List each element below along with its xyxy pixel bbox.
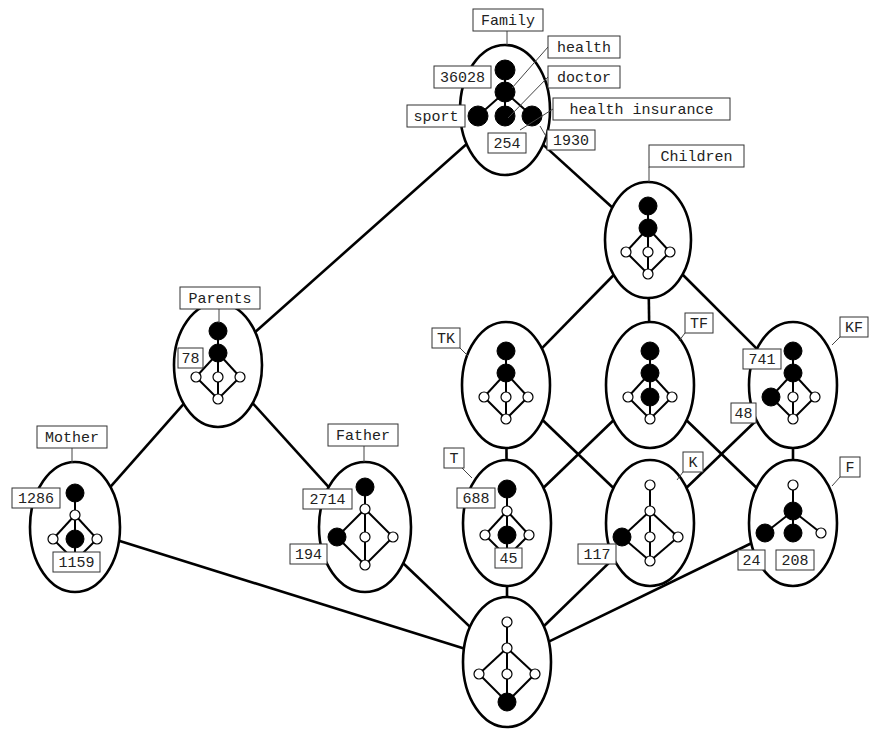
filled-concept-dot [356, 478, 374, 496]
annotation: 45 [495, 548, 522, 568]
annotation: 78 [178, 348, 203, 368]
filled-concept-dot [613, 528, 631, 546]
empty-concept-dot [213, 372, 223, 382]
node-label-family: Family [481, 13, 535, 30]
empty-concept-dot [92, 534, 102, 544]
filled-concept-dot [497, 342, 515, 360]
node-label-kf: KF [845, 320, 863, 337]
annotation: 1286 [12, 488, 60, 508]
empty-concept-dot [645, 506, 655, 516]
filled-concept-dot [639, 219, 657, 237]
filled-concept-dot [468, 106, 488, 126]
filled-concept-dot [756, 524, 774, 542]
lattice-node-kf: KF [749, 317, 868, 448]
empty-concept-dot [816, 528, 826, 538]
annotation: sport [407, 105, 465, 127]
annotation: 688 [457, 488, 495, 508]
annotation: 117 [578, 544, 616, 564]
annotation-text: 208 [781, 553, 808, 570]
empty-concept-dot [530, 669, 540, 679]
empty-concept-dot [645, 556, 655, 566]
filled-concept-dot [66, 530, 84, 548]
annotation: health insurance [520, 98, 730, 130]
annotation-text: 1159 [58, 555, 94, 572]
node-label-t: T [449, 451, 458, 468]
filled-concept-dot [498, 526, 516, 544]
annotation: 254 [488, 133, 526, 153]
filled-concept-dot [495, 60, 515, 80]
annotation-text: 45 [499, 551, 517, 568]
filled-concept-dot [498, 693, 516, 711]
lattice-diagram: FamilyChildrenParentsTKTFKFMotherFatherT… [0, 0, 872, 736]
empty-concept-dot [502, 506, 512, 516]
annotation-text: 36028 [440, 70, 485, 87]
empty-concept-dot [479, 392, 489, 402]
filled-concept-dot [784, 502, 802, 520]
lattice-node-k: K [606, 452, 703, 586]
empty-concept-dot [645, 532, 655, 542]
filled-concept-dot [498, 480, 516, 498]
lattice-node-tk: TK [432, 322, 550, 448]
annotation-text: 741 [748, 352, 775, 369]
empty-concept-dot [667, 392, 677, 402]
annotation: 36028 [434, 66, 491, 88]
filled-concept-dot [784, 342, 802, 360]
empty-concept-dot [665, 247, 675, 257]
node-label-children: Children [660, 149, 732, 166]
annotation: 1159 [53, 552, 100, 572]
annotation-text: 688 [462, 491, 489, 508]
annotation-text: 194 [295, 547, 322, 564]
empty-concept-dot [502, 617, 512, 627]
annotation-text: 1930 [553, 133, 589, 150]
filled-concept-dot [495, 82, 515, 102]
filled-concept-dot [641, 364, 659, 382]
filled-concept-dot [209, 322, 227, 340]
edge-family-parents [255, 144, 466, 332]
filled-concept-dot [209, 344, 227, 362]
annotation-text: health insurance [569, 102, 713, 119]
annotation: 1930 [540, 126, 595, 150]
filled-concept-dot [495, 106, 515, 126]
empty-concept-dot [524, 530, 534, 540]
empty-concept-dot [643, 269, 653, 279]
empty-concept-dot [474, 669, 484, 679]
filled-concept-dot [639, 197, 657, 215]
empty-concept-dot [213, 394, 223, 404]
filled-concept-dot [497, 364, 515, 382]
edge-family-children [543, 145, 612, 208]
filled-concept-dot [784, 364, 802, 382]
empty-concept-dot [502, 669, 512, 679]
empty-concept-dot [501, 414, 511, 424]
label-leader [832, 477, 840, 486]
annotation: 2714 [303, 489, 352, 509]
empty-concept-dot [788, 414, 798, 424]
empty-concept-dot [623, 392, 633, 402]
annotation: 48 [731, 403, 756, 423]
node-label-tf: TF [690, 316, 708, 333]
empty-concept-dot [523, 392, 533, 402]
label-leader [460, 348, 468, 356]
lattice-node-tf: TF [606, 313, 713, 448]
empty-concept-dot [645, 414, 655, 424]
empty-concept-dot [480, 530, 490, 540]
annotation-text: 254 [493, 136, 520, 153]
empty-concept-dot [643, 247, 653, 257]
edge-children-tk [542, 275, 614, 348]
filled-concept-dot [641, 342, 659, 360]
annotation: 208 [776, 550, 814, 570]
empty-concept-dot [70, 510, 80, 520]
filled-concept-dot [66, 484, 84, 502]
annotation: 194 [290, 544, 327, 564]
node-label-tk: TK [437, 331, 455, 348]
empty-concept-dot [673, 532, 683, 542]
empty-concept-dot [645, 480, 655, 490]
filled-concept-dot [762, 388, 780, 406]
empty-concept-dot [191, 372, 201, 382]
annotation-text: 48 [734, 406, 752, 423]
empty-concept-dot [788, 392, 798, 402]
label-leader [832, 337, 840, 345]
node-label-f: F [845, 460, 854, 477]
label-leader [462, 468, 472, 478]
empty-concept-dot [235, 372, 245, 382]
edge-parents-mother [110, 404, 183, 487]
